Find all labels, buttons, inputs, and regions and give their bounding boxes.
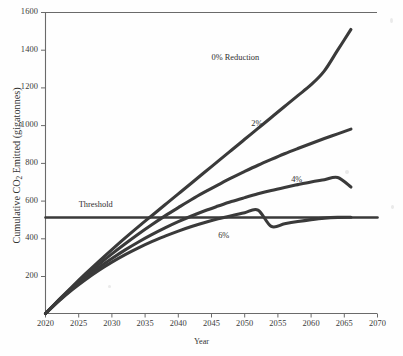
scan-artifact (391, 205, 394, 209)
x-tick-label: 2045 (196, 319, 228, 328)
y-axis-title-post: Emitted (gigatonnes) (11, 87, 22, 175)
x-axis-ticks (46, 314, 378, 318)
series-annotation-4pct: 4% (291, 175, 302, 184)
x-tick-label: 2065 (328, 319, 360, 328)
series-annotation-0pct: 0% Reduction (212, 53, 260, 62)
x-tick-label: 2060 (295, 319, 327, 328)
scan-artifact (390, 18, 393, 23)
threshold-annotation: Threshold (79, 200, 113, 209)
chart-canvas (0, 0, 403, 356)
x-tick-label: 2035 (129, 319, 161, 328)
x-tick-label: 2070 (362, 319, 394, 328)
x-tick-label: 2030 (96, 319, 128, 328)
x-tick-label: 2020 (30, 319, 62, 328)
y-axis-title-subscript: 2 (15, 176, 24, 180)
series-annotation-6pct: 6% (218, 231, 229, 240)
y-axis-title: Cumulative CO2 Emitted (gigatonnes) (11, 66, 22, 266)
series-line-4pct (46, 177, 351, 313)
y-axis-ticks (41, 13, 46, 277)
x-tick-label: 2050 (229, 319, 261, 328)
y-tick-label: 1600 (0, 7, 38, 16)
y-tick-label: 1400 (0, 45, 38, 54)
series-annotation-2pct: 2% (251, 119, 262, 128)
y-axis-title-pre: Cumulative CO (11, 179, 22, 243)
scan-artifact (108, 285, 111, 288)
scan-artifact (345, 170, 349, 174)
series-line-6pct (46, 209, 351, 313)
x-tick-label: 2040 (162, 319, 194, 328)
x-tick-label: 2055 (262, 319, 294, 328)
chart-figure: 1600 1400 1200 1000 800 600 400 200 2020… (0, 0, 403, 356)
x-tick-label: 2025 (63, 319, 95, 328)
x-axis-title: Year (0, 337, 403, 346)
y-tick-label: 200 (0, 271, 38, 280)
